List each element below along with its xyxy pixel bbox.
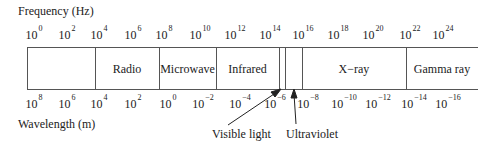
- visible-light-label: Visible light: [212, 127, 271, 142]
- visible-light-arrow-line: [228, 92, 277, 125]
- band-label: X−ray: [339, 62, 370, 77]
- band-label: Microwave: [160, 62, 215, 77]
- band-label: Radio: [113, 62, 142, 77]
- ultraviolet-label: Ultraviolet: [286, 127, 338, 142]
- ultraviolet-arrowhead: [291, 89, 297, 98]
- band-label: Infrared: [228, 62, 267, 77]
- visible-light-arrowhead: [271, 89, 281, 97]
- band-label: Gamma ray: [414, 62, 470, 77]
